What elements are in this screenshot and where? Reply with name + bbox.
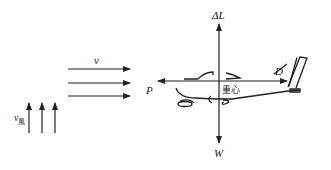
lift-increment-label: ΔL: [212, 10, 225, 21]
drag-label: D: [275, 66, 283, 77]
thrust-label: P: [146, 85, 153, 96]
airplane-sketch: [176, 57, 307, 107]
updraft-velocity-label: v風: [14, 113, 25, 126]
wind-arrows: [68, 69, 130, 96]
updraft-arrows: [29, 103, 55, 133]
center-of-gravity-label: 重心: [222, 86, 240, 95]
updraft-velocity-subscript: 風: [18, 118, 25, 126]
force-diagram: [0, 0, 331, 170]
weight-label: W: [214, 148, 223, 159]
wind-velocity-label: v: [94, 55, 99, 66]
